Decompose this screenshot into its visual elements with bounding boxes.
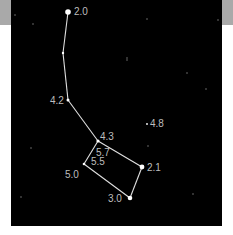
constellation-line	[84, 164, 130, 198]
star-s2	[62, 52, 64, 54]
background-star	[147, 145, 148, 146]
constellation-chart: 2.04.24.35.02.13.04.85.75.5	[0, 0, 233, 235]
constellation-line	[63, 12, 68, 53]
constellation-line	[68, 100, 98, 141]
star-s7	[128, 196, 133, 201]
background-star	[126, 57, 127, 58]
star-s8	[146, 123, 148, 125]
star-magnitude-label: 5.5	[91, 156, 105, 167]
star-magnitude-label: 5.0	[65, 169, 79, 180]
constellation-line	[63, 53, 68, 100]
star-magnitude-label: 2.0	[74, 6, 88, 17]
background-star	[205, 88, 206, 89]
star-magnitude-label: 2.1	[147, 162, 161, 173]
star-magnitude-label: 4.3	[100, 131, 114, 142]
star-s5	[83, 163, 86, 166]
star-s6	[140, 165, 145, 170]
constellation-line	[130, 167, 142, 198]
background-star	[146, 18, 147, 19]
background-star	[20, 196, 21, 197]
star-magnitude-label: 4.8	[150, 118, 164, 129]
background-star	[186, 72, 187, 73]
star-magnitude-label: 4.2	[50, 95, 64, 106]
star-magnitude-label: 3.0	[108, 193, 122, 204]
star-s1	[65, 9, 71, 15]
background-star	[126, 59, 127, 60]
background-star	[32, 23, 33, 24]
star-s3	[67, 99, 70, 102]
background-star	[217, 19, 218, 20]
background-star	[14, 14, 15, 15]
background-star	[192, 193, 193, 194]
background-star	[30, 147, 31, 148]
